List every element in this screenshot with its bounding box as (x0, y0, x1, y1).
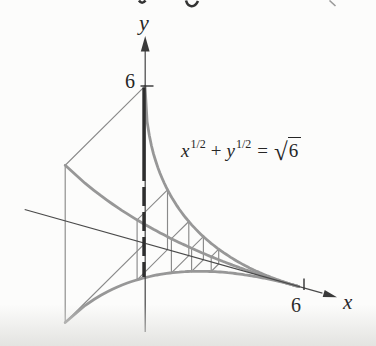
x-axis-line (25, 210, 323, 294)
y-axis-arrowhead (141, 36, 150, 52)
bottom-front-curve (65, 271, 298, 322)
equation-equals-sign: = (251, 140, 274, 161)
sqrt-curve-xy-plane (145, 86, 299, 286)
cropped-text-fragment-left (139, 1, 146, 3)
curve-equation: x1/2+y1/2=√6 (181, 139, 301, 163)
x-axis-label: x (343, 292, 352, 313)
equation-var-x: x (181, 140, 189, 161)
equation-exponent-y: 1/2 (236, 137, 251, 151)
cross-section-x0-outline (65, 86, 145, 322)
radicand: 6 (288, 137, 302, 161)
radical-sign: √ (274, 138, 288, 165)
equation-exponent-x: 1/2 (190, 137, 205, 151)
textbook-figure: y 6 x 6 x1/2+y1/2=√6 (0, 0, 376, 346)
solid-wireframe-canvas (0, 0, 376, 346)
cropped-text-fragment-center (186, 1, 198, 7)
x-axis-arrowhead (323, 290, 337, 297)
equation-plus-sign: + (206, 140, 227, 161)
x-axis-tick-label-6: 6 (291, 295, 301, 315)
cropped-text-fragment-right (330, 1, 336, 7)
y-axis-label: y (139, 12, 149, 34)
top-front-curve (65, 165, 298, 286)
equation-var-y: y (227, 140, 235, 161)
y-axis-tick-label-6: 6 (125, 71, 135, 91)
